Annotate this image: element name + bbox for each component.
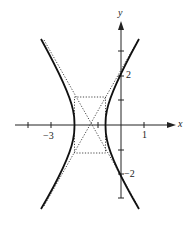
y-axis-label: y <box>118 8 122 18</box>
hyperbola-figure <box>0 0 193 225</box>
x-axis-arrow-icon <box>167 122 176 128</box>
y-tick-label-2: 2 <box>126 70 131 80</box>
hyperbola-right-branch <box>106 39 140 209</box>
y-axis-arrow-icon <box>118 21 124 30</box>
x-axis-label: x <box>178 119 182 129</box>
y-tick-label-neg2: −2 <box>124 169 135 179</box>
x-axis <box>15 122 176 128</box>
x-tick-label-1: 1 <box>142 130 147 140</box>
x-tick-label-neg3: −3 <box>43 131 54 141</box>
